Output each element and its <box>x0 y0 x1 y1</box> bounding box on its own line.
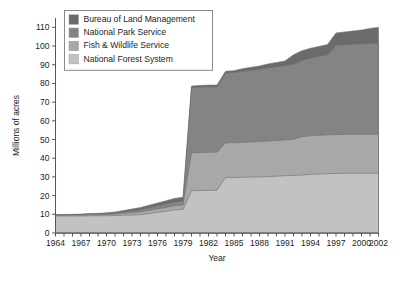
legend-label-bureau-of-land-management: Bureau of Land Management <box>84 14 196 24</box>
y-tick-label: 90 <box>40 60 50 70</box>
legend-swatch-fish-wildlife-service <box>69 41 79 51</box>
y-tick-label: 20 <box>40 191 50 201</box>
x-tick-label: 1964 <box>46 238 65 248</box>
y-axis-title: Millions of acres <box>11 95 21 156</box>
x-axis-ticks: 1964196719701973197619791982198519881991… <box>46 233 388 248</box>
legend-swatch-national-park-service <box>69 28 79 38</box>
y-axis-ticks: 0102030405060708090100110 <box>35 22 55 238</box>
legend-swatch-bureau-of-land-management <box>69 15 79 24</box>
chart-legend: Bureau of Land ManagementNational Park S… <box>65 11 213 71</box>
stacked-area-chart: 0102030405060708090100110 19641967197019… <box>0 0 407 282</box>
x-tick-label: 1997 <box>327 238 346 248</box>
y-tick-label: 50 <box>40 135 50 145</box>
y-tick-label: 30 <box>40 172 50 182</box>
x-tick-label: 1991 <box>276 238 295 248</box>
y-tick-label: 60 <box>40 116 50 126</box>
chart-figure: 0102030405060708090100110 19641967197019… <box>0 0 407 282</box>
x-tick-label: 1985 <box>225 238 244 248</box>
legend-label-fish-wildlife-service: Fish & Wildlife Service <box>84 40 170 50</box>
y-tick-label: 10 <box>40 209 50 219</box>
x-tick-label: 1979 <box>174 238 193 248</box>
y-tick-label: 40 <box>40 153 50 163</box>
x-tick-label: 1973 <box>123 238 142 248</box>
x-tick-label: 2002 <box>369 238 388 248</box>
legend-label-national-forest-system: National Forest System <box>84 54 173 64</box>
x-tick-label: 1970 <box>97 238 116 248</box>
y-tick-label: 70 <box>40 97 50 107</box>
legend-swatch-national-forest-system <box>69 54 79 64</box>
x-tick-label: 1982 <box>199 238 218 248</box>
x-tick-label: 1988 <box>250 238 269 248</box>
x-tick-label: 1967 <box>72 238 91 248</box>
y-tick-label: 100 <box>35 41 49 51</box>
x-tick-label: 1976 <box>148 238 167 248</box>
legend-label-national-park-service: National Park Service <box>84 27 167 37</box>
y-tick-label: 0 <box>45 228 50 238</box>
y-tick-label: 110 <box>36 22 50 32</box>
x-axis-title: Year <box>208 253 225 263</box>
x-tick-label: 1994 <box>301 238 320 248</box>
y-tick-label: 80 <box>40 78 50 88</box>
